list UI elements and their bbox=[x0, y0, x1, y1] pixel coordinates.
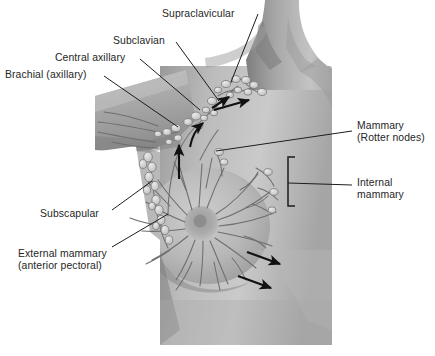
label-supraclavicular: Supraclavicular bbox=[162, 8, 235, 20]
label-central-axillary: Central axillary bbox=[55, 52, 125, 64]
label-external-mammary-anterior-pectoral: External mammary (anterior pectoral) bbox=[18, 248, 107, 273]
lymph-node-diagram-figure: Supraclavicular Subclavian Central axill… bbox=[0, 0, 435, 356]
nipple bbox=[194, 215, 207, 228]
lower-torso-tone bbox=[160, 300, 332, 345]
label-brachial-axillary: Brachial (axillary) bbox=[5, 69, 87, 81]
label-internal-mammary: Internal mammary bbox=[357, 177, 404, 202]
torso-photograph bbox=[93, 0, 332, 345]
label-mammary-rotter-nodes: Mammary (Rotter nodes) bbox=[357, 120, 425, 145]
label-subscapular: Subscapular bbox=[40, 208, 99, 220]
label-subclavian: Subclavian bbox=[113, 35, 165, 47]
